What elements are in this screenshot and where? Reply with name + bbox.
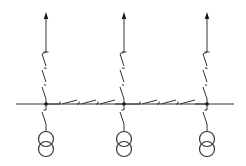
feeder-bay-1 <box>39 12 54 157</box>
single-line-diagram <box>0 0 246 166</box>
switch-icon <box>142 100 157 104</box>
switch-icon <box>180 100 195 104</box>
feeder-bay-2 <box>117 12 132 157</box>
feeder-bay-3 <box>200 12 215 157</box>
switch-icon <box>62 100 77 104</box>
switch-icon <box>100 100 115 104</box>
bus-section-1-2 <box>46 100 124 104</box>
switch-icon <box>81 100 96 104</box>
switch-icon <box>161 100 176 104</box>
bus-section-2-3 <box>124 100 207 104</box>
